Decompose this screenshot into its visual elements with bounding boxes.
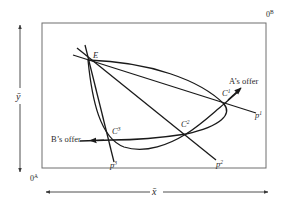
edgeworth-box-diagram: ȳ x̄ 0A 0B E C1 C2 C3 p1 p2 p3 A’s offer…: [0, 0, 286, 206]
point-c3-label: C3: [112, 126, 121, 137]
price-line-p3: [85, 45, 114, 162]
a-offer-label: A’s offer: [229, 76, 259, 86]
offer-curve-b: [88, 60, 240, 149]
y-bar-label: ȳ: [15, 91, 21, 102]
b-offer-label: B’s offer: [51, 134, 81, 144]
origin-b-label: 0B: [266, 9, 274, 19]
x-bar-label: x̄: [151, 186, 157, 197]
price-line-p2: [77, 48, 216, 160]
price-p1-label: p1: [254, 110, 262, 121]
b-offer-arrow: [90, 140, 104, 141]
offer-curve-a: [80, 60, 227, 141]
endowment-label: E: [92, 50, 99, 60]
point-c1-label: C1: [222, 88, 231, 99]
origin-a-label: 0A: [30, 173, 38, 183]
price-p2-label: p2: [215, 159, 223, 170]
point-c2-label: C2: [181, 119, 190, 130]
